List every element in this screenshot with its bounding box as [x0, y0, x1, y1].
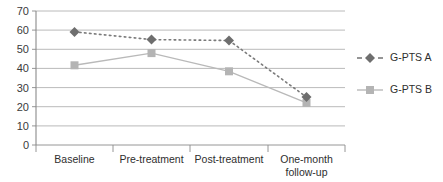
chart-canvas: 70 60 50 40 30 20 10 0: [0, 0, 443, 182]
data-point-g-pts-a: [147, 35, 157, 45]
y-tick-label: 50: [17, 43, 29, 55]
data-point-g-pts-b: [71, 61, 79, 69]
x-axis-category-labels: Baseline Pre-treatment Post-treatment On…: [54, 153, 333, 178]
y-tick-label: 40: [17, 62, 29, 74]
data-point-g-pts-a: [70, 27, 80, 37]
y-tick-label: 20: [17, 101, 29, 113]
x-axis-ticks: [36, 145, 345, 152]
legend: G-PTS A G-PTS B: [357, 51, 432, 95]
legend-item-g-pts-a[interactable]: G-PTS A: [357, 51, 431, 63]
y-tick-label: 0: [23, 139, 29, 151]
y-axis-tick-labels: 70 60 50 40 30 20 10 0: [17, 5, 29, 151]
y-axis-ticks: [32, 11, 36, 145]
data-point-g-pts-b: [148, 49, 156, 57]
data-point-g-pts-b: [225, 67, 233, 75]
legend-marker-diamond-icon: [365, 53, 375, 63]
category-label-post-treatment: Post-treatment: [195, 153, 264, 165]
series-markers-g-pts-b: [71, 49, 311, 107]
y-tick-label: 60: [17, 24, 29, 36]
legend-marker-square-icon: [366, 86, 374, 94]
y-tick-label: 70: [17, 5, 29, 17]
category-label-one-month-followup: One-month: [280, 153, 333, 165]
category-label-one-month-followup-line2: follow-up: [285, 166, 327, 178]
y-tick-label: 10: [17, 120, 29, 132]
legend-item-g-pts-b[interactable]: G-PTS B: [357, 83, 432, 95]
legend-label-g-pts-b: G-PTS B: [390, 83, 432, 95]
legend-label-g-pts-a: G-PTS A: [390, 51, 431, 63]
gridlines: [36, 11, 345, 145]
category-label-pre-treatment: Pre-treatment: [119, 153, 183, 165]
category-label-baseline: Baseline: [54, 153, 94, 165]
series-line-g-pts-b: [75, 53, 307, 103]
line-chart: 70 60 50 40 30 20 10 0: [0, 0, 443, 182]
y-tick-label: 30: [17, 82, 29, 94]
